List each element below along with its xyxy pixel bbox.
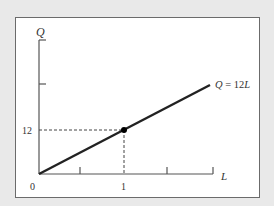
line-equation-label: Q = 12L — [215, 79, 250, 90]
data-point — [121, 127, 127, 133]
origin-label: 0 — [30, 181, 35, 192]
x-tick-label-1: 1 — [121, 181, 126, 192]
eq-mid: = 12 — [223, 79, 245, 90]
chart-svg: Q L 0 1 12 Q = 12L — [0, 0, 274, 206]
y-axis-label: Q — [36, 25, 45, 39]
y-tick-label-12: 12 — [22, 125, 32, 136]
eq-l: L — [243, 79, 250, 90]
x-axis-label: L — [220, 170, 227, 182]
